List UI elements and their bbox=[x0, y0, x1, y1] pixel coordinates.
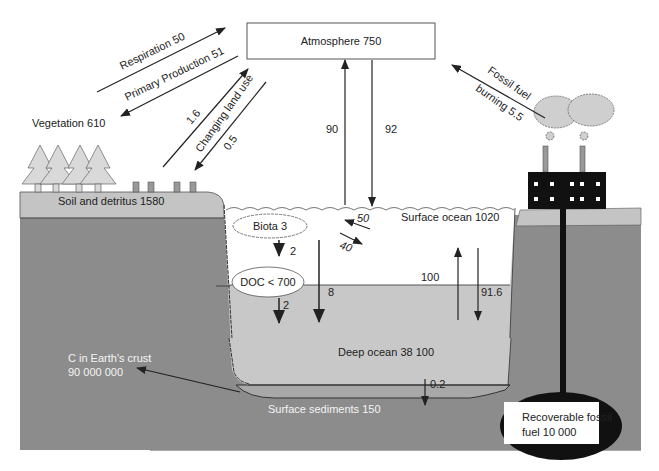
biota-in-label: 50 bbox=[357, 212, 370, 224]
vegetation-label: Vegetation 610 bbox=[32, 117, 105, 129]
crust-label-line2: 90 000 000 bbox=[68, 366, 123, 378]
fossil-fuel-label-line2: fuel 10 000 bbox=[522, 426, 576, 438]
right-soil-layer bbox=[516, 208, 641, 226]
land-use-down-label: 0.5 bbox=[221, 133, 240, 152]
carbon-cycle-diagram: Atmosphere 750 Vegetation 610 Soil and d… bbox=[0, 0, 659, 471]
mixing-down-label: 91.6 bbox=[481, 286, 502, 298]
biota-label: Biota 3 bbox=[253, 220, 287, 232]
soil-label: Soil and detritus 1580 bbox=[58, 195, 164, 207]
land-use-up-label: 1.6 bbox=[183, 107, 202, 126]
fossil-fuel-label-line1: Recoverable fossil bbox=[522, 411, 612, 423]
oil-well-pipe bbox=[560, 209, 566, 409]
ocean-uptake-label: 90 bbox=[326, 123, 338, 135]
doc-label: DOC < 700 bbox=[240, 276, 295, 288]
atmosphere-label: Atmosphere 750 bbox=[301, 35, 382, 47]
deep-ocean-label: Deep ocean 38 100 bbox=[338, 346, 434, 358]
ocean-release-label: 92 bbox=[385, 123, 397, 135]
smoke-clouds-icon bbox=[534, 94, 614, 140]
biota-to-doc-label: 2 bbox=[290, 245, 296, 257]
land-use-up-arrow bbox=[163, 69, 248, 167]
forest-icon bbox=[22, 145, 116, 192]
sediments-label: Surface sediments 150 bbox=[268, 403, 381, 415]
doc-down-label: 2 bbox=[283, 299, 289, 311]
mixing-up-label: 100 bbox=[421, 271, 439, 283]
cleared-stumps-icon bbox=[133, 182, 196, 192]
sedimentation-label: 0.2 bbox=[430, 378, 445, 390]
crust-label-line1: C in Earth's crust bbox=[68, 352, 151, 364]
surface-ocean-label: Surface ocean 1020 bbox=[401, 211, 499, 223]
biota-to-deep-label: 8 bbox=[328, 286, 334, 298]
